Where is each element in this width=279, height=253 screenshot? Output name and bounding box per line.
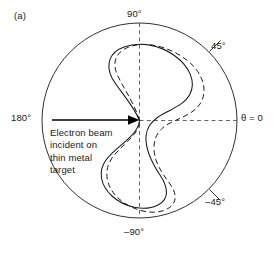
- axis-label-90: 90°: [127, 9, 142, 19]
- beam-annotation-text: Electron beam incident on thin metal tar…: [50, 127, 113, 177]
- polar-plot-canvas: [0, 0, 279, 253]
- beam-annotation-line-1: Electron beam: [50, 127, 113, 139]
- dashed-lobe-curve: [107, 44, 204, 212]
- polar-angular-distribution-figure: (a) 90° 45° 180° θ = 0 –45° –90° Electro…: [0, 0, 279, 253]
- beam-annotation-line-4: target: [50, 164, 113, 176]
- beam-annotation-line-2: incident on: [50, 139, 113, 151]
- axis-label-theta-zero: θ = 0: [241, 113, 263, 123]
- panel-label: (a): [14, 11, 26, 21]
- axis-label-180: 180°: [11, 113, 31, 123]
- axis-label-negative-45: –45°: [205, 197, 225, 207]
- beam-annotation-line-3: thin metal: [50, 152, 113, 164]
- axis-label-negative-90: –90°: [124, 227, 144, 237]
- axis-label-45: 45°: [211, 41, 226, 51]
